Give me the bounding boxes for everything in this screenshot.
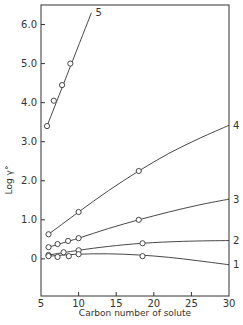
x-axis-title: Carbon number of solute <box>79 308 192 318</box>
data-point <box>66 254 71 259</box>
data-point <box>51 98 56 103</box>
data-point <box>46 254 51 259</box>
data-point <box>140 241 145 246</box>
data-point <box>61 250 66 255</box>
curve-3 <box>49 199 229 247</box>
data-point <box>68 61 73 66</box>
y-tick-label: 4.0 <box>21 97 37 108</box>
y-tick-label: 2.0 <box>21 175 37 186</box>
y-tick-label: 3.0 <box>21 136 37 147</box>
data-point <box>76 209 81 214</box>
x-tick-label: 5 <box>38 298 44 309</box>
data-point <box>59 82 64 87</box>
data-point <box>76 236 81 241</box>
y-tick-label: 1.0 <box>21 214 37 225</box>
plot-frame <box>41 5 229 296</box>
curve-labels: 54321 <box>95 7 239 270</box>
y-tick-label: 5.0 <box>21 58 37 69</box>
curve-label-1: 1 <box>233 259 239 270</box>
data-point <box>65 238 70 243</box>
data-point <box>46 245 51 250</box>
curve-label-2: 2 <box>233 235 239 246</box>
data-point <box>46 232 51 237</box>
y-axis-title: Log γ° <box>4 166 14 195</box>
data-point <box>136 168 141 173</box>
chart: 51015202530 01.02.03.04.05.06.0 54321 Ca… <box>0 0 243 325</box>
y-tick-label: 6.0 <box>21 19 37 30</box>
data-points <box>44 61 145 260</box>
data-point <box>140 254 145 259</box>
x-tick-label: 30 <box>223 298 236 309</box>
curves <box>47 13 229 265</box>
data-point <box>55 241 60 246</box>
curve-label-5: 5 <box>95 7 101 18</box>
x-axis-ticks: 51015202530 <box>38 292 236 309</box>
curve-label-4: 4 <box>233 120 239 131</box>
data-point <box>76 252 81 257</box>
data-point <box>55 254 60 259</box>
y-tick-label: 0 <box>31 253 37 264</box>
data-point <box>136 217 141 222</box>
curve-1 <box>49 254 229 265</box>
curve-label-3: 3 <box>233 194 239 205</box>
curve-5 <box>47 13 91 126</box>
curve-2 <box>49 241 229 255</box>
data-point <box>44 123 49 128</box>
